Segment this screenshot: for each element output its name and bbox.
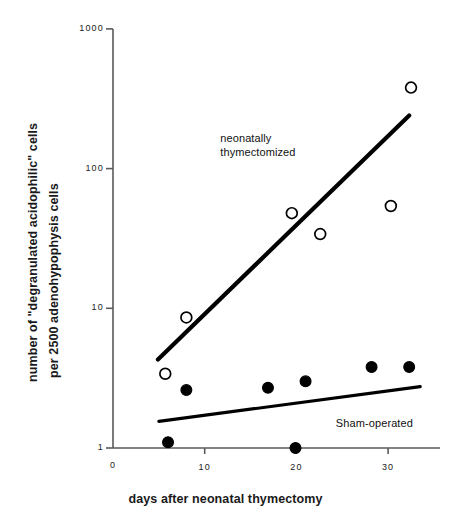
data-point-filled — [404, 362, 415, 373]
data-point-filled — [290, 443, 301, 454]
figure-chart: number of "degranulated acidophilic" cel… — [0, 0, 451, 521]
y-tick-label: 1000 — [52, 23, 104, 33]
x-tick-label: 20 — [276, 462, 316, 472]
y-tick-label: 1 — [52, 442, 104, 452]
annotation-sham-operated: Sham-operated — [336, 416, 413, 430]
y-tick-label: 10 — [52, 302, 104, 312]
data-point-open — [385, 201, 396, 212]
data-point-filled — [300, 376, 311, 387]
x-axis-title: days after neonatal thymectomy — [0, 492, 451, 506]
data-point-open — [315, 229, 326, 240]
data-point-filled — [181, 385, 192, 396]
x-tick-label: 10 — [185, 462, 225, 472]
y-axis-label-line2: per 2500 adenohypophysis cells — [47, 183, 61, 378]
annotation-line: neonatally — [220, 131, 295, 145]
data-point-filled — [163, 437, 174, 448]
data-point-open — [160, 368, 171, 379]
y-tick-label: 100 — [52, 163, 104, 173]
data-point-open — [286, 208, 297, 219]
annotation-line: Sham-operated — [336, 416, 413, 430]
x-tick-label: 30 — [368, 462, 408, 472]
data-point-open — [181, 312, 192, 323]
annotation-neonatally-thymectomized: neonatallythymectomized — [220, 131, 295, 159]
data-point-open — [406, 82, 417, 93]
data-point-filled — [366, 362, 377, 373]
chart-trendlines — [158, 115, 420, 421]
data-point-filled — [263, 382, 274, 393]
y-axis-label-line1: number of "degranulated acidophilic" cel… — [26, 123, 40, 382]
x-origin-label: 0 — [93, 460, 133, 470]
annotation-line: thymectomized — [220, 145, 295, 159]
